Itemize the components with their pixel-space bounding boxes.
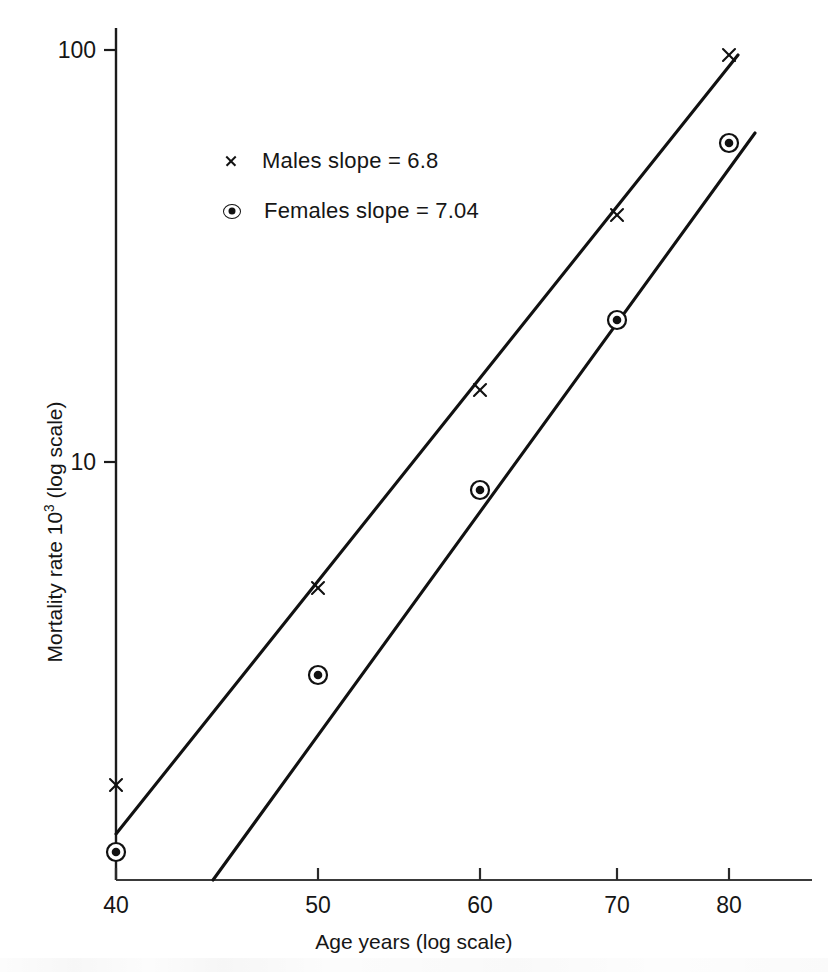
x-tick-label-60: 60 [467,894,493,917]
x-tick-label-50: 50 [305,894,331,917]
data-point-females-80 [720,134,738,152]
data-point-females-40 [107,843,125,861]
y-axis-title-exponent: 3 [41,504,57,512]
x-tick-label-80: 80 [716,894,742,917]
data-point-males-70 [611,209,623,221]
dot-circle-marker-icon [223,204,241,219]
cross-marker-icon [222,152,240,170]
trend-line-females [213,133,755,880]
figure-root: 100 10 40 50 60 70 80 Age years (log sca… [0,0,828,972]
y-axis-title-suffix: (log scale) [43,402,66,505]
data-points-females [107,134,738,861]
chart-plot-area [0,0,828,972]
x-tick-label-40: 40 [103,894,129,917]
x-axis-title: Age years (log scale) [0,930,828,954]
y-tick-label-100: 100 [34,39,96,62]
data-point-females-60 [471,481,489,499]
x-tick-label-70: 70 [604,894,630,917]
data-point-females-70 [608,311,626,329]
data-point-males-60 [474,384,486,396]
data-point-females-50 [309,666,327,684]
legend-item-males: Males slope = 6.8 [222,150,479,172]
legend-label-males: Males slope = 6.8 [262,148,438,174]
legend-item-females: Females slope = 7.04 [222,200,479,222]
scan-artifact [0,958,828,972]
y-axis-ticks [104,50,116,462]
data-point-males-80 [723,49,735,61]
chart-legend: Males slope = 6.8 Females slope = 7.04 [222,150,479,222]
y-axis-title-base: Mortality rate 10 [43,512,66,663]
x-axis-ticks [116,868,729,880]
y-axis-title: Mortality rate 103 (log scale) [43,322,67,742]
legend-label-females: Females slope = 7.04 [264,198,479,224]
